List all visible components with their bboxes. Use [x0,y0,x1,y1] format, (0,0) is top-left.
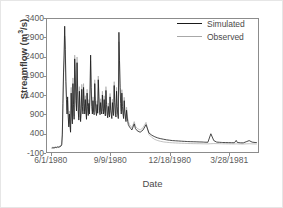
y-axis-label: Streamflow (m3/s) [17,0,29,129]
y-axis-tick-mark [43,95,46,96]
x-axis-tick-label: 6/1/1980 [21,156,81,165]
legend-label-simulated: Simulated [207,19,245,29]
x-axis-tick-mark [110,153,111,156]
legend-swatch-simulated [177,23,202,24]
y-axis-tick-mark [43,134,46,135]
y-axis-tick-mark [43,153,46,154]
x-axis-tick-mark [229,153,230,156]
legend-item-observed[interactable]: Observed [177,30,245,43]
series-line-observed [52,36,257,147]
y-axis-label-exponent: 3 [17,30,24,34]
y-axis-tick-label: 400 [4,129,44,138]
legend-item-simulated[interactable]: Simulated [177,17,245,30]
legend-label-observed: Observed [207,32,244,42]
x-axis-tick-mark [51,153,52,156]
x-axis-tick-label: 12/18/1980 [140,156,200,165]
y-axis-label-main: Streamflow (m [18,34,29,99]
y-axis-tick-mark [43,37,46,38]
chart-legend: SimulatedObserved [177,17,245,43]
series-line-simulated [52,26,257,148]
x-axis-tick-label: 3/28/1981 [199,156,259,165]
x-axis-label: Date [46,178,259,189]
y-axis-tick-mark [43,114,46,115]
x-axis-tick-label: 9/9/1980 [80,156,140,165]
y-axis-tick-mark [43,76,46,77]
x-axis-tick-mark [170,153,171,156]
legend-swatch-observed [177,36,202,37]
y-axis-tick-mark [43,57,46,58]
y-axis-tick-mark [43,18,46,19]
y-axis-label-units: /s) [18,19,29,30]
figure-container: 34002900240019001400900400-100 Streamflo… [0,0,283,208]
